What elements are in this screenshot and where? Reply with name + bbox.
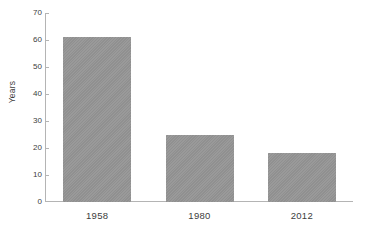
bar-chart-figure: Years 010203040506070 195819802012 — [0, 0, 365, 239]
x-axis-tick-label: 1980 — [148, 210, 250, 221]
bar-slot — [268, 13, 336, 202]
x-axis-tick-label: 2012 — [251, 210, 353, 221]
y-axis-tick-mark — [46, 175, 49, 176]
y-axis-tick-label-group: 010203040506070 — [24, 12, 42, 202]
y-axis-tick-mark — [46, 94, 49, 95]
y-axis-tick-mark — [46, 40, 49, 41]
x-axis-tick-label-group: 195819802012 — [46, 210, 353, 224]
bar[interactable] — [63, 37, 131, 202]
y-axis-tick-label: 20 — [24, 144, 42, 152]
y-axis-tick-label: 40 — [24, 90, 42, 98]
y-axis-tick-label: 50 — [24, 63, 42, 71]
x-axis-tick-label: 1958 — [46, 210, 148, 221]
bar[interactable] — [166, 135, 234, 203]
y-axis-tick-mark — [46, 121, 49, 122]
y-axis-tick-mark — [46, 67, 49, 68]
y-axis-title: Years — [7, 64, 19, 120]
y-axis-tick-label: 70 — [24, 9, 42, 17]
y-axis-tick-mark — [46, 13, 49, 14]
bar[interactable] — [268, 153, 336, 202]
bar-slot — [166, 13, 234, 202]
y-axis-tick-label: 60 — [24, 36, 42, 44]
y-axis-tick-label: 30 — [24, 117, 42, 125]
y-axis-tick-label: 0 — [24, 198, 42, 206]
y-axis-tick-mark — [46, 148, 49, 149]
bar-slot — [63, 13, 131, 202]
y-axis-tick-label: 10 — [24, 171, 42, 179]
plot-area — [46, 13, 353, 202]
